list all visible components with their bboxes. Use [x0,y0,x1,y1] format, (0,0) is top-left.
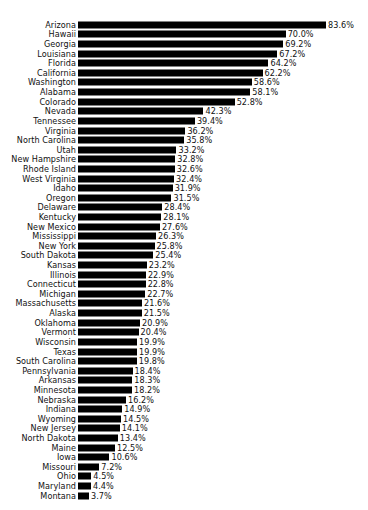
bar-track [78,69,263,76]
bar [78,338,137,345]
bar-track [78,242,155,249]
value-label: 52.8% [237,97,263,106]
bar [78,223,160,230]
bar-track [78,213,161,220]
bar [78,319,140,326]
bar-track [78,271,146,278]
bar [78,281,146,288]
bar-track [78,386,132,393]
bar-track [78,473,91,480]
bar-track [78,50,277,57]
bar [78,425,120,432]
bar-track [78,185,173,192]
bar-track [78,319,140,326]
bar-track [78,338,137,345]
bar [78,31,286,38]
bar [78,98,235,105]
bar [78,117,195,124]
bar-track [78,223,160,230]
bar [78,204,162,211]
chart-row: Montana3.7% [0,491,368,501]
bar [78,454,109,461]
bar-track [78,31,286,38]
bar [78,79,252,86]
bar-chart: Arizona83.6%Hawaii70.0%Georgia69.2%Louis… [0,0,368,510]
bar-track [78,367,133,374]
bar-track [78,165,175,172]
bar [78,386,132,393]
bar [78,252,153,259]
bar [78,165,175,172]
bar-track [78,108,203,115]
bar [78,473,91,480]
bar-track [78,146,176,153]
bar-track [78,348,137,355]
value-label: 3.7% [91,491,112,500]
bar [78,41,283,48]
bar-track [78,396,126,403]
bar-track [78,425,120,432]
bar [78,435,118,442]
bar-track [78,79,252,86]
bar-track [78,463,99,470]
chart-row: Maine12.5% [0,443,368,453]
bar [78,156,175,163]
bar [78,213,161,220]
bar [78,300,142,307]
bar [78,69,263,76]
bar [78,406,122,413]
bar [78,463,99,470]
bar [78,146,176,153]
bar [78,396,126,403]
bar [78,185,173,192]
bar-track [78,21,326,28]
chart-rows: Arizona83.6%Hawaii70.0%Georgia69.2%Louis… [0,20,368,500]
bar-track [78,60,268,67]
bar [78,242,155,249]
bar [78,348,137,355]
bar [78,290,145,297]
bar-track [78,262,147,269]
bar-track [78,204,162,211]
bar-track [78,252,153,259]
bar-track [78,233,156,240]
bar-track [78,358,137,365]
bar-track [78,454,109,461]
bar [78,21,326,28]
bar-track [78,175,174,182]
bar [78,89,250,96]
bar [78,175,174,182]
bar-track [78,377,132,384]
bar [78,310,142,317]
bar [78,444,115,451]
bar-track [78,435,118,442]
bar-track [78,98,235,105]
bar-track [78,290,145,297]
bar-track [78,444,115,451]
bar-track [78,300,142,307]
bar-track [78,127,185,134]
bar [78,483,91,490]
bar [78,108,203,115]
bar [78,367,133,374]
bar [78,262,147,269]
bar-track [78,137,184,144]
bar [78,127,185,134]
bar-track [78,117,195,124]
bar-track [78,483,91,490]
bar-track [78,281,146,288]
bar [78,329,139,336]
bar-track [78,156,175,163]
bar-track [78,492,89,499]
bar-track [78,406,122,413]
bar [78,233,156,240]
bar-track [78,194,171,201]
bar-track [78,329,139,336]
bar [78,271,146,278]
bar [78,60,268,67]
chart-row: Missouri7.2% [0,462,368,472]
bar [78,194,171,201]
bar-track [78,41,283,48]
bar-track [78,415,121,422]
category-label: Montana [40,491,76,500]
